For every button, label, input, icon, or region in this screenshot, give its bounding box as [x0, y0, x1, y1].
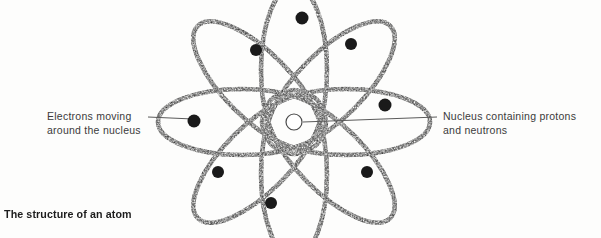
electron-dot	[379, 99, 392, 112]
electron-dot	[361, 166, 373, 178]
electron-dot	[212, 166, 224, 178]
figure-caption: The structure of an atom	[4, 208, 132, 220]
callout-electrons-line1: Electrons moving	[47, 110, 132, 122]
nucleus-icon	[286, 114, 302, 130]
figure-canvas: Electrons moving around the nucleus Nucl…	[0, 0, 601, 238]
electron-group	[188, 12, 392, 210]
electron-dot	[250, 44, 262, 56]
leader-line-electrons	[148, 117, 193, 119]
callout-nucleus-line2: and neutrons	[443, 124, 576, 138]
orbit-path-overlay	[174, 2, 339, 167]
orbit-path-overlay	[248, 2, 413, 167]
callout-label-nucleus: Nucleus containing protons and neutrons	[443, 110, 576, 137]
callout-label-electrons: Electrons moving around the nucleus	[47, 110, 141, 137]
electron-dot	[296, 12, 309, 25]
orbit-path-overlay	[174, 76, 339, 238]
electron-dot	[188, 115, 201, 128]
callout-nucleus-line1: Nucleus containing protons	[443, 110, 576, 122]
electron-dot	[265, 197, 277, 209]
callout-electrons-line2: around the nucleus	[47, 124, 141, 138]
electron-dot	[345, 38, 357, 50]
